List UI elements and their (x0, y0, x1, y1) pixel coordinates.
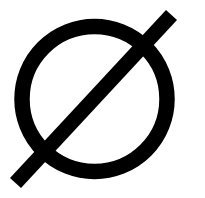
symbol-canvas: Ø (0, 0, 205, 198)
empty-set-icon (0, 0, 205, 198)
